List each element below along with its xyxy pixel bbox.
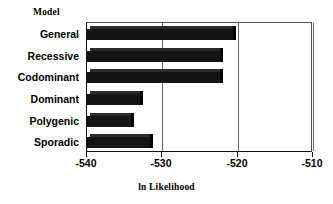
bar xyxy=(87,72,223,86)
category-label-polygenic: Polygenic xyxy=(29,116,79,127)
bar-end-cap xyxy=(233,26,236,40)
bar-end-cap xyxy=(150,134,153,148)
bar-front-face xyxy=(87,116,131,127)
category-label-recessive: Recessive xyxy=(28,51,79,62)
category-label-codominant: Codominant xyxy=(18,72,79,83)
bar-front-face xyxy=(87,137,150,148)
category-label-sporadic: Sporadic xyxy=(34,137,79,148)
x-axis-title: ln Likelihood xyxy=(0,182,333,192)
bar xyxy=(87,116,134,130)
x-axis-tick-label: -530 xyxy=(150,157,171,169)
bar xyxy=(87,51,223,65)
bar-front-face xyxy=(87,94,140,105)
bar-group xyxy=(87,23,311,151)
plot-area xyxy=(86,22,312,152)
gridline xyxy=(313,23,314,151)
bar-chart: Model GeneralRecessiveCodominantDominant… xyxy=(0,0,333,204)
bar xyxy=(87,137,153,151)
bar xyxy=(87,94,143,108)
category-label-dominant: Dominant xyxy=(31,94,79,105)
category-axis-title: Model xyxy=(33,7,60,17)
x-axis-tick-label-group: -540-530-520-510 xyxy=(86,157,312,171)
bar-front-face xyxy=(87,72,220,83)
x-axis-tick-label: -510 xyxy=(301,157,322,169)
x-axis-tick-label: -520 xyxy=(226,157,247,169)
bar-end-cap xyxy=(220,48,223,62)
bar-end-cap xyxy=(140,91,143,105)
bar-front-face xyxy=(87,29,233,40)
bar-end-cap xyxy=(220,69,223,83)
bar xyxy=(87,29,236,43)
category-label-general: General xyxy=(40,29,79,40)
bar-end-cap xyxy=(131,113,134,127)
x-axis-tick-label: -540 xyxy=(75,157,96,169)
category-label-group: GeneralRecessiveCodominantDominantPolyge… xyxy=(0,22,83,152)
bar-front-face xyxy=(87,51,220,62)
